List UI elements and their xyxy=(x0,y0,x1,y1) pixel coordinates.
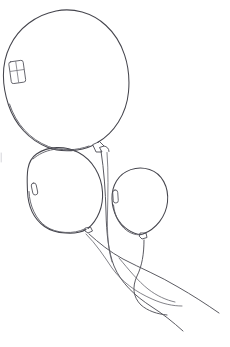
balloons-illustration xyxy=(0,0,230,347)
drawing-canvas xyxy=(0,0,230,347)
canvas-background xyxy=(0,0,230,347)
